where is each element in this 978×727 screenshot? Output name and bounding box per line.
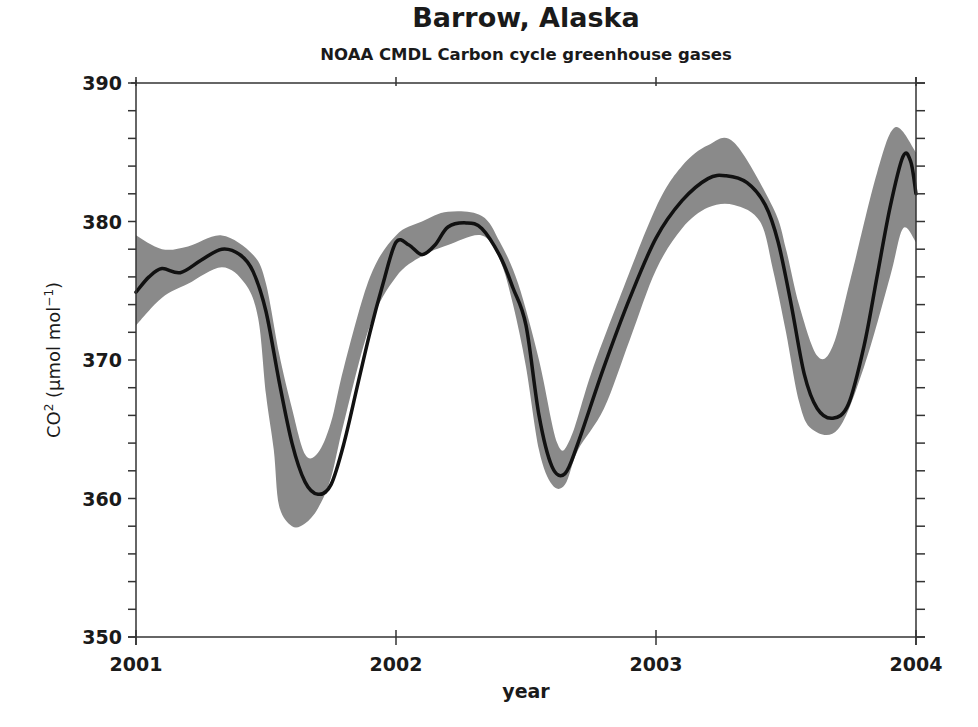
x-tick-label: 2004 <box>890 653 943 675</box>
y-tick-label: 380 <box>82 211 122 233</box>
y-tick-label: 350 <box>82 626 122 648</box>
y-axis-label: CO2 (µmol mol−1) <box>42 282 64 438</box>
chart-plot: 350360370380390 2001200220032004 year CO… <box>0 0 978 727</box>
y-tick-label: 370 <box>82 349 122 371</box>
y-tick-label: 390 <box>82 72 122 94</box>
x-tick-label: 2003 <box>630 653 683 675</box>
x-axis-label: year <box>502 680 550 702</box>
y-tick-label: 360 <box>82 488 122 510</box>
x-tick-label: 2001 <box>110 653 163 675</box>
x-tick-label: 2002 <box>370 653 423 675</box>
